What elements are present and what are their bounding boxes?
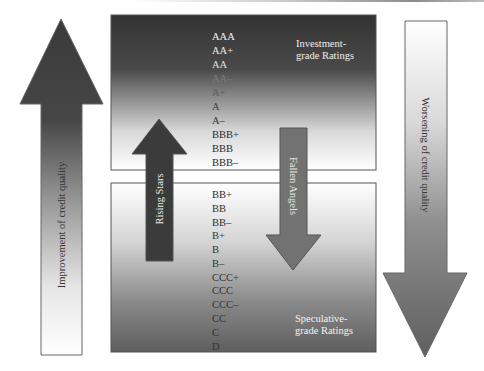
top-rule [130,0,484,2]
speculative-grade-title-line2: grade Ratings [295,325,353,336]
rating-item: CC [212,313,226,324]
investment-grade-title-line2: grade Ratings [296,50,354,61]
credit-rating-diagram: AAA AA+ AA AA– A+ A A– BBB+ BBB BBB– Inv… [0,0,484,371]
rating-item: A+ [212,87,226,98]
improvement-label: Improvement of credit quality [56,161,67,288]
investment-grade-title-line1: Investment- [296,38,347,49]
rating-item: BBB+ [212,129,239,140]
rating-item: CCC– [212,299,239,310]
worsening-label: Worsening of credit quality [420,98,431,214]
rating-item: BBB– [212,157,239,168]
rating-item: C [212,327,219,338]
rating-item: AA+ [212,45,233,56]
rating-item: A [212,101,220,112]
rating-item: AAA [212,31,235,42]
rating-item: B [212,244,219,255]
fallen-angels-label: Fallen Angels [288,157,299,215]
rating-item: BBB [212,143,233,154]
rating-item: AA [212,59,228,70]
rating-item: B+ [212,230,225,241]
rating-item: BB [212,203,226,214]
rating-item: BB– [212,217,232,228]
rating-item: D [212,341,220,352]
rating-item: AA– [212,73,233,84]
rating-item: BB+ [212,189,232,200]
rating-item: A– [212,115,226,126]
rating-item: CCC+ [212,272,239,283]
rising-stars-label: Rising Stars [154,173,165,224]
rating-item: CCC [212,285,233,296]
rating-item: B– [212,258,225,269]
speculative-grade-title-line1: Speculative- [295,313,348,324]
